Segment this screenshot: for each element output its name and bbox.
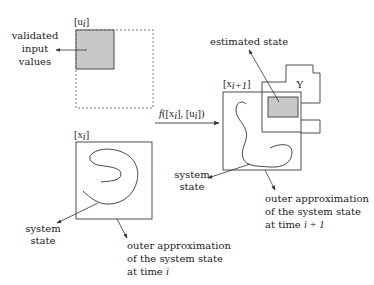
outer-approx-i-line1: outer approximation xyxy=(127,240,231,251)
validated-label-line1: validated xyxy=(11,30,59,41)
state-set-next: [xi+1] system state outer approximation … xyxy=(174,78,369,230)
state-set-next-label: [xi+1] xyxy=(223,78,251,91)
state-set-i: [xi] system state outer approximation of… xyxy=(25,129,231,277)
state-set-i-label: [xi] xyxy=(74,129,89,142)
outer-approx-next-line2: of the system state xyxy=(265,206,361,217)
measurement-set-notch xyxy=(301,120,320,133)
outer-approx-next-line1: outer approximation xyxy=(265,193,369,204)
outer-approx-next-arrow xyxy=(265,170,275,190)
outer-approx-i-line3: at time i xyxy=(127,266,169,277)
system-state-i-line2: state xyxy=(30,235,55,246)
mapping-label: f([xi], [ui]) xyxy=(159,108,205,121)
diagram-svg: [ui] validated input values [xi] system … xyxy=(0,0,374,285)
outer-approx-i-line2: of the system state xyxy=(127,253,223,264)
measurement-set-label: Y xyxy=(296,79,304,90)
mapping: f([xi], [ui]) xyxy=(155,108,219,123)
system-state-next-line1: system xyxy=(174,169,210,180)
input-set: [ui] validated input values xyxy=(11,16,153,108)
system-trajectory-i xyxy=(83,149,138,204)
validated-label-line3: values xyxy=(18,56,51,67)
estimated-state-label: estimated state xyxy=(210,36,288,47)
diagram-canvas: [ui] validated input values [xi] system … xyxy=(0,0,374,285)
input-set-label: [ui] xyxy=(74,16,89,29)
system-state-next-arrow xyxy=(208,164,250,178)
estimated-state-arrow xyxy=(249,50,279,102)
estimated-state-region xyxy=(268,97,298,117)
validated-input-region xyxy=(76,30,114,69)
validated-label-line2: input xyxy=(22,43,49,54)
system-state-i-line1: system xyxy=(25,223,61,234)
outer-approx-next-line3: at time i + 1 xyxy=(265,219,324,230)
outer-approx-i-arrow xyxy=(117,219,127,238)
system-state-i-arrow xyxy=(57,203,98,223)
system-state-next-line2: state xyxy=(179,181,204,192)
